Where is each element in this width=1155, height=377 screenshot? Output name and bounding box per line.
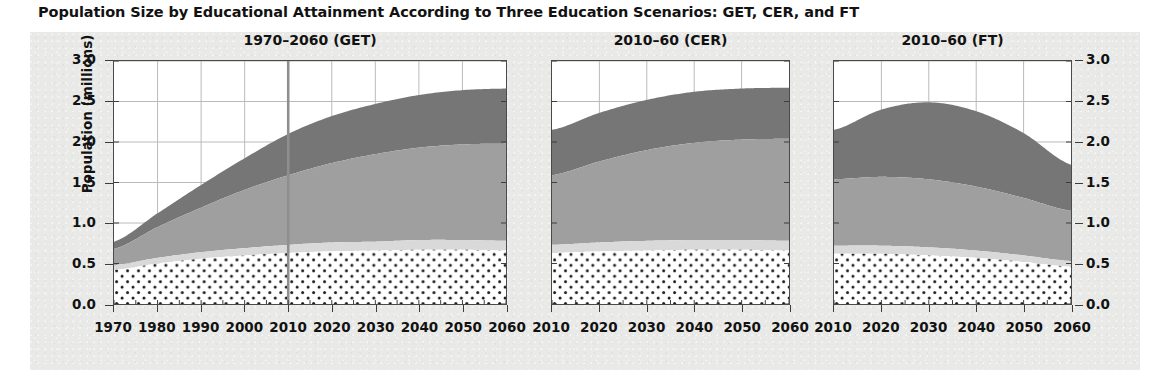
x-tick-ft-2030: 2030 xyxy=(906,319,952,335)
y-tick-left-0.0: 0.0 xyxy=(62,296,96,312)
y-tick-mark xyxy=(1075,264,1083,265)
y-tick-mark xyxy=(105,223,113,224)
x-tick-ft-2010: 2010 xyxy=(810,319,856,335)
y-tick-left-1.5: 1.5 xyxy=(62,174,96,190)
x-tick-cer-2060: 2060 xyxy=(767,319,813,335)
x-tick-mark xyxy=(551,305,552,312)
y-tick-right-2.0: 2.0 xyxy=(1086,133,1120,149)
y-tick-mark xyxy=(105,101,113,102)
x-tick-mark xyxy=(201,305,202,312)
x-tick-mark xyxy=(376,305,377,312)
y-tick-mark xyxy=(1075,101,1083,102)
panel-ft: 2010–60 (FT) xyxy=(833,60,1072,305)
y-tick-right-1.5: 1.5 xyxy=(1086,174,1120,190)
x-tick-get-1970: 1970 xyxy=(90,319,136,335)
panel-ft-area-chart xyxy=(834,61,1071,304)
x-tick-get-2000: 2000 xyxy=(221,319,267,335)
panel-get-plot-area xyxy=(113,60,507,305)
x-tick-mark xyxy=(244,305,245,312)
panel-get: 1970–2060 (GET) xyxy=(113,60,507,305)
x-tick-cer-2050: 2050 xyxy=(719,319,765,335)
y-tick-mark xyxy=(105,183,113,184)
x-tick-mark xyxy=(332,305,333,312)
x-tick-mark xyxy=(113,305,114,312)
x-tick-mark xyxy=(929,305,930,312)
x-tick-mark xyxy=(157,305,158,312)
x-tick-mark xyxy=(1024,305,1025,312)
x-tick-mark xyxy=(694,305,695,312)
panel-ft-plot-area xyxy=(833,60,1072,305)
x-tick-mark xyxy=(419,305,420,312)
x-tick-ft-2060: 2060 xyxy=(1049,319,1095,335)
x-tick-ft-2040: 2040 xyxy=(953,319,999,335)
area-layer-no-education xyxy=(552,250,789,304)
x-tick-get-2050: 2050 xyxy=(440,319,486,335)
x-tick-get-2060: 2060 xyxy=(484,319,530,335)
y-tick-mark xyxy=(105,60,113,61)
x-tick-cer-2030: 2030 xyxy=(624,319,670,335)
x-tick-get-2030: 2030 xyxy=(353,319,399,335)
x-tick-cer-2010: 2010 xyxy=(528,319,574,335)
x-tick-cer-2020: 2020 xyxy=(576,319,622,335)
figure-title: Population Size by Educational Attainmen… xyxy=(38,4,859,20)
panel-get-area-chart xyxy=(114,61,506,304)
x-tick-mark xyxy=(288,305,289,312)
panel-cer: 2010–60 (CER) xyxy=(551,60,790,305)
x-tick-get-2010: 2010 xyxy=(265,319,311,335)
y-tick-mark xyxy=(1075,60,1083,61)
y-tick-left-3.0: 3.0 xyxy=(62,51,96,67)
y-tick-left-2.5: 2.5 xyxy=(62,92,96,108)
y-tick-mark xyxy=(1075,305,1083,306)
x-tick-mark xyxy=(881,305,882,312)
x-tick-mark xyxy=(507,305,508,312)
y-tick-left-2.0: 2.0 xyxy=(62,133,96,149)
figure-root: Population Size by Educational Attainmen… xyxy=(0,0,1155,377)
panel-cer-title: 2010–60 (CER) xyxy=(551,32,790,48)
y-tick-right-1.0: 1.0 xyxy=(1086,214,1120,230)
panel-ft-title: 2010–60 (FT) xyxy=(833,32,1072,48)
y-tick-right-0.5: 0.5 xyxy=(1086,255,1120,271)
x-tick-get-1980: 1980 xyxy=(134,319,180,335)
x-tick-mark xyxy=(976,305,977,312)
x-tick-mark xyxy=(833,305,834,312)
x-tick-mark xyxy=(790,305,791,312)
x-tick-get-1990: 1990 xyxy=(178,319,224,335)
y-tick-mark xyxy=(1075,142,1083,143)
x-tick-mark xyxy=(1072,305,1073,312)
y-tick-right-0.0: 0.0 xyxy=(1086,296,1120,312)
y-tick-mark xyxy=(105,305,113,306)
y-tick-mark xyxy=(1075,223,1083,224)
x-tick-ft-2020: 2020 xyxy=(858,319,904,335)
y-tick-left-1.0: 1.0 xyxy=(62,214,96,230)
x-tick-mark xyxy=(463,305,464,312)
panel-get-title: 1970–2060 (GET) xyxy=(113,32,507,48)
x-tick-mark xyxy=(599,305,600,312)
x-tick-cer-2040: 2040 xyxy=(671,319,717,335)
x-tick-mark xyxy=(647,305,648,312)
y-tick-mark xyxy=(105,142,113,143)
x-tick-mark xyxy=(742,305,743,312)
x-tick-get-2020: 2020 xyxy=(309,319,355,335)
x-tick-get-2040: 2040 xyxy=(396,319,442,335)
y-tick-left-0.5: 0.5 xyxy=(62,255,96,271)
y-tick-right-2.5: 2.5 xyxy=(1086,92,1120,108)
y-tick-mark xyxy=(1075,183,1083,184)
panel-cer-plot-area xyxy=(551,60,790,305)
x-tick-ft-2050: 2050 xyxy=(1001,319,1047,335)
y-tick-mark xyxy=(105,264,113,265)
y-tick-right-3.0: 3.0 xyxy=(1086,51,1120,67)
panel-cer-area-chart xyxy=(552,61,789,304)
